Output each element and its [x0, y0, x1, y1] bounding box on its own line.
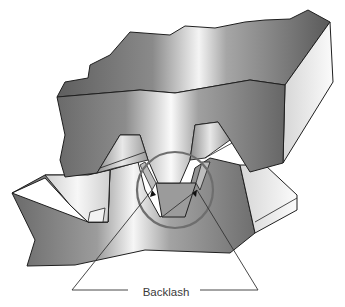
lower-gear-front-face	[12, 158, 255, 266]
backlash-diagram: Backlash	[0, 0, 345, 307]
upper-gear-front-face	[57, 80, 285, 183]
backlash-label: Backlash	[143, 286, 190, 298]
